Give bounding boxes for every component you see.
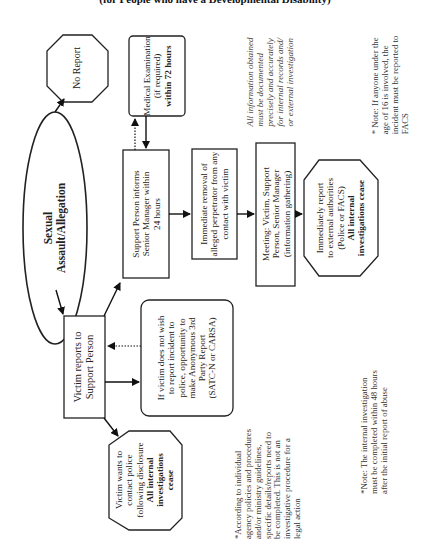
- medical-line1: Medical Examination: [142, 36, 152, 115]
- medical-line3: within 72 hours: [162, 36, 172, 115]
- medical-line2: (if required): [152, 36, 162, 115]
- external-report-line5: investigations cease: [356, 178, 366, 258]
- support-informs-line3: 24 hours: [151, 170, 161, 257]
- anonymous-line4: make Anonymous 3rd: [187, 316, 197, 401]
- contact-police-line3: following disclosure: [135, 442, 145, 517]
- contact-police-line1: Victim wants to: [114, 442, 124, 517]
- support-informs-line2: Senior Manager within: [141, 170, 151, 257]
- meeting-line3: (information gathering): [281, 167, 291, 261]
- agency-line7: legal action: [293, 429, 303, 539]
- victim-reports-node: Victim reports to Support Person: [72, 331, 96, 402]
- external-report-line1: Immediately report: [315, 178, 325, 258]
- timeline-note: *Note: The internal investigation must b…: [360, 370, 390, 494]
- external-report-line3: (Police or FACS): [336, 178, 346, 258]
- contact-police-line5: investigations: [155, 442, 165, 517]
- documentation-line5: or external investigation: [285, 38, 295, 127]
- victim-reports-line2: Support Person: [84, 331, 96, 402]
- removal-line3: contact with victim: [219, 152, 229, 257]
- contact-police-line4: All internal: [145, 442, 155, 517]
- anonymous-line5: Party Report: [197, 316, 207, 401]
- meeting-node: Meeting: Victim, Support Person, Senior …: [261, 167, 292, 261]
- anonymous-line6: (SATC-N or CARSA): [208, 316, 218, 401]
- documentation-line1: All information obtained: [245, 38, 255, 127]
- contact-police-line2: contact police: [124, 442, 134, 517]
- start-node: Sexual Assault/Allegation: [42, 183, 68, 273]
- support-informs-line1: Support Person informs: [131, 170, 141, 257]
- anonymous-line3: police, opportunity to: [177, 316, 187, 401]
- start-line1: Sexual: [42, 183, 55, 273]
- support-informs-node: Support Person informs Senior Manager wi…: [131, 170, 162, 257]
- under16-note: * Note: If anyone under the age of 16 is…: [371, 36, 410, 135]
- no-report-node: No Report: [71, 47, 82, 89]
- victim-reports-line1: Victim reports to: [72, 331, 84, 402]
- removal-line1: Immediate removal of: [199, 152, 209, 257]
- timeline-line3: after the initial report of abuse: [380, 370, 390, 494]
- start-line2: Assault/Allegation: [55, 183, 68, 273]
- documentation-note: All information obtained must be documen…: [245, 38, 295, 127]
- removal-line2: alleged perpetrator from any: [209, 152, 219, 257]
- external-report-line2: to external authorities: [326, 178, 336, 258]
- contact-police-node: Victim wants to contact police following…: [114, 442, 176, 517]
- documentation-line3: precisely and accurately: [265, 38, 275, 127]
- contact-police-line6: cease: [166, 442, 176, 517]
- meeting-line2: Person, Senior Manager: [271, 167, 281, 261]
- agency-note: *According to individual agency policies…: [234, 429, 303, 539]
- external-report-line4: All internal: [346, 178, 356, 258]
- documentation-line4: for internal records and/: [275, 38, 285, 127]
- documentation-line2: must be documented: [255, 38, 265, 127]
- anonymous-line1: If victim does not wish: [156, 316, 166, 401]
- medical-node: Medical Examination (if required) within…: [142, 36, 173, 115]
- anonymous-report-node: If victim does not wish to report incide…: [156, 316, 218, 401]
- under16-line4: FACS: [401, 36, 411, 135]
- external-report-node: Immediately report to external authoriti…: [315, 178, 366, 258]
- meeting-line1: Meeting: Victim, Support: [261, 167, 271, 261]
- removal-node: Immediate removal of alleged perpetrator…: [199, 152, 230, 257]
- anonymous-line2: to report incident to: [166, 316, 176, 401]
